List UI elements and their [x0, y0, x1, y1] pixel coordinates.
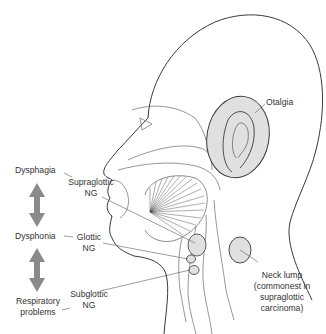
- label-subglottic-ng: Subglottic NG: [68, 289, 110, 311]
- label-subglottic-line1: Subglottic: [68, 289, 110, 300]
- label-supraglottic-ng: Supraglottic NG: [66, 177, 116, 199]
- label-dysphagia: Dysphagia: [15, 165, 56, 176]
- label-neck-lump-line1: Neck lump: [246, 270, 318, 281]
- label-neck-lump: Neck lump (commonest in supraglottic car…: [246, 270, 318, 314]
- label-dysphonia: Dysphonia: [15, 231, 56, 242]
- subglottic-ng-site: [189, 266, 199, 275]
- label-respiratory-line2: problems: [12, 307, 64, 318]
- label-glottic-ng: Glottic NG: [74, 232, 104, 254]
- neck-front: [134, 256, 168, 334]
- tongue: [145, 176, 207, 242]
- label-glottic-line2: NG: [74, 243, 104, 254]
- label-neck-lump-line3: supraglottic: [246, 292, 318, 303]
- label-subglottic-line2: NG: [68, 300, 110, 311]
- label-respiratory-problems: Respiratory problems: [12, 296, 64, 318]
- arrow-dysphagia-dysphonia: [29, 183, 45, 227]
- label-supraglottic-line1: Supraglottic: [66, 177, 116, 188]
- label-otalgia: Otalgia: [266, 97, 293, 108]
- label-neck-lump-line4: carcinoma): [246, 303, 318, 314]
- arrow-dysphonia-respiratory: [29, 248, 45, 292]
- supraglottic-ng-site: [188, 234, 206, 256]
- label-glottic-line1: Glottic: [74, 232, 104, 243]
- label-supraglottic-line2: NG: [66, 188, 116, 199]
- airway: [179, 200, 234, 334]
- label-neck-lump-line2: (commonest in: [246, 281, 318, 292]
- nasal-cavity: [128, 146, 212, 170]
- label-respiratory-line1: Respiratory: [12, 296, 64, 307]
